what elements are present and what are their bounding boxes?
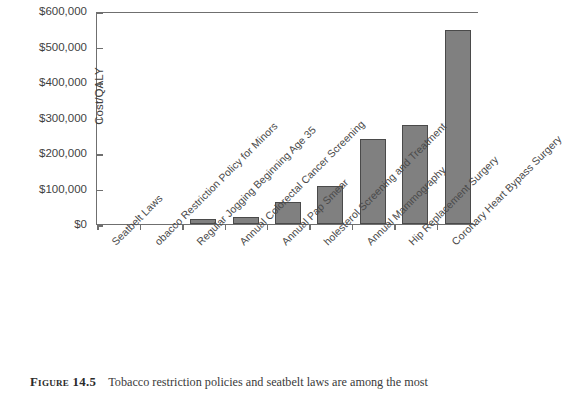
- x-tick-mark: [140, 224, 141, 230]
- bar: [190, 219, 216, 224]
- bar: [275, 202, 301, 224]
- y-tick-label: $0: [74, 218, 87, 230]
- bar: [360, 139, 386, 224]
- y-tick-label: $300,000: [39, 112, 87, 124]
- x-tick-mark: [394, 224, 395, 230]
- y-tick-label: $200,000: [39, 147, 87, 159]
- x-tick-mark: [352, 224, 353, 230]
- bar: [402, 125, 428, 224]
- bar: [148, 223, 174, 224]
- x-tick-mark: [182, 224, 183, 230]
- y-tick-label: $600,000: [39, 5, 87, 17]
- figure-number: Figure 14.5: [30, 375, 96, 389]
- figure-caption-text: Tobacco restriction policies and seatbel…: [108, 375, 428, 389]
- x-tick-mark: [97, 224, 98, 230]
- x-tick-mark: [309, 224, 310, 230]
- x-tick-mark: [225, 224, 226, 230]
- figure-caption: Figure 14.5Tobacco restriction policies …: [30, 375, 480, 391]
- bar: [445, 30, 471, 224]
- bar: [105, 224, 131, 225]
- y-tick-label: $500,000: [39, 41, 87, 53]
- y-tick-label: $100,000: [39, 183, 87, 195]
- bars-layer: [97, 13, 478, 224]
- x-tick-mark: [267, 224, 268, 230]
- y-tick-label: $400,000: [39, 76, 87, 88]
- plot-area: Cost/QALY $0$100,000$200,000$300,000$400…: [96, 12, 478, 225]
- bar: [233, 217, 259, 224]
- x-tick-mark: [437, 224, 438, 230]
- bar: [317, 186, 343, 224]
